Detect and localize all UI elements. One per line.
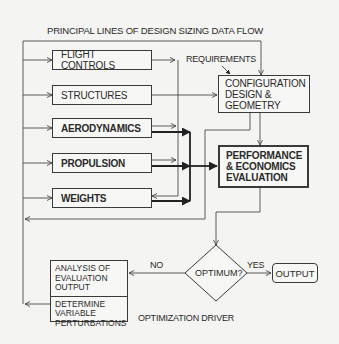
config-line-3: GEOMETRY [225, 100, 280, 111]
perf-line-2: & ECONOMICS [226, 161, 295, 172]
perf-line-3: EVALUATION [226, 172, 288, 183]
optimization-driver-label: OPTIMIZATION DRIVER [138, 313, 234, 323]
config-line-1: CONFIGURATION [225, 78, 306, 89]
box-propulsion: PROPULSION [52, 153, 152, 173]
config-line-2: DESIGN & [225, 89, 271, 100]
box-structures: STRUCTURES [52, 85, 152, 105]
analysis-section: ANALYSIS OF EVALUATION OUTPUT [51, 261, 127, 296]
output-label: OUTPUT [275, 268, 314, 279]
perturb-line-3: PERTURBATIONS [55, 319, 123, 329]
box-output: OUTPUT [272, 263, 318, 283]
perf-line-1: PERFORMANCE [226, 150, 302, 161]
requirements-label: REQUIREMENTS [186, 54, 256, 64]
box-weights: WEIGHTS [52, 188, 152, 208]
perturbation-section: DETERMINE VARIABLE PERTURBATIONS [51, 296, 127, 332]
box-label: PROPULSION [61, 158, 125, 169]
box-label: FLIGHT CONTROLS [61, 49, 151, 71]
box-configuration-design-geometry: CONFIGURATION DESIGN & GEOMETRY [218, 75, 310, 113]
box-label: WEIGHTS [61, 193, 106, 204]
box-performance-economics: PERFORMANCE & ECONOMICS EVALUATION [218, 145, 309, 188]
box-label: AERODYNAMICS [61, 123, 141, 134]
no-label: NO [150, 260, 163, 270]
analysis-line-3: OUTPUT [55, 283, 123, 293]
box-flight-controls: FLIGHT CONTROLS [52, 50, 152, 70]
box-label: STRUCTURES [61, 90, 127, 101]
box-optimization: ANALYSIS OF EVALUATION OUTPUT DETERMINE … [50, 260, 128, 322]
yes-label: YES [247, 260, 264, 270]
diagram-title: PRINCIPAL LINES OF DESIGN SIZING DATA FL… [47, 25, 263, 36]
decision-label: OPTIMUM? [195, 268, 243, 278]
box-aerodynamics: AERODYNAMICS [52, 118, 152, 138]
